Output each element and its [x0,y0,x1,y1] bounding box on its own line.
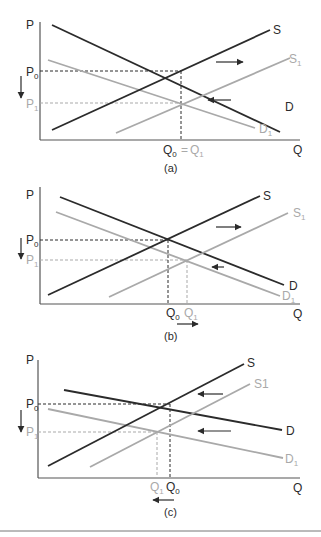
label-s: S [273,23,281,37]
panel-a: P Q S S1 D D1 P0 P1 Q0 = Q1 (a) [21,18,302,174]
label-s: S [263,189,271,203]
y-axis-label: P [26,353,34,367]
label-p1: P1 [26,425,39,441]
y-axis-label: P [26,188,34,202]
panel-caption: (b) [164,330,177,342]
panel-caption: (c) [164,506,177,518]
label-q1: Q1 [184,306,198,322]
demand-curve-d1 [56,212,280,296]
label-d1: D1 [259,122,273,138]
demand-curve-d1 [48,409,283,458]
label-s1: S1 [254,377,269,391]
label-p0: P0 [26,233,39,249]
label-q1: Q1 [190,143,204,159]
label-d1: D1 [285,452,299,468]
label-d: D [285,100,294,114]
label-q0: Q0 [166,306,180,322]
x-axis-label: Q [293,481,302,495]
supply-curve-s [48,196,260,295]
label-q0: Q0 [166,480,180,496]
label-q1: Q1 [150,480,164,496]
panel-c: P Q S S1 D D1 P0 P1 Q1 Q0 (c) [21,353,302,518]
label-s1: S1 [289,52,302,68]
label-d: D [286,424,295,438]
label-s1: S1 [293,206,306,222]
x-axis-label: Q [293,307,302,321]
label-q0: Q0 [163,143,177,159]
supply-demand-diagrams: P Q S S1 D D1 P0 P1 Q0 = Q1 (a) P Q [0,0,321,537]
label-equals: = [181,143,188,157]
label-p1: P1 [26,97,39,113]
y-axis-label: P [26,18,34,32]
label-s: S [247,356,255,370]
label-p1: P1 [26,253,39,269]
panel-b: P Q S S1 D D1 P0 P1 Q0 Q1 (b) [21,187,306,342]
demand-curve-d [60,197,284,285]
panel-caption: (a) [164,162,177,174]
label-p0: P0 [26,397,39,413]
label-p0: P0 [26,65,39,81]
x-axis-label: Q [293,143,302,157]
